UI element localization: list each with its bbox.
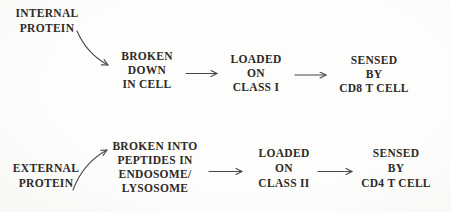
step-loaded-on-class1: LOADED ON CLASS I bbox=[201, 52, 311, 94]
external-protein-label: EXTERNAL PROTEIN bbox=[1, 161, 91, 191]
label-line: INTERNAL bbox=[2, 6, 92, 21]
label-line: EXTERNAL bbox=[1, 161, 91, 176]
antigen-pathway-diagram: INTERNAL PROTEIN BROKEN DOWN IN CELL LOA… bbox=[0, 0, 451, 212]
step-line: LOADED bbox=[201, 52, 311, 66]
step-line: PEPTIDES IN bbox=[100, 153, 210, 167]
step-line: LOADED bbox=[229, 146, 339, 161]
step-line: SENSED bbox=[341, 146, 451, 161]
step-line: CLASS I bbox=[201, 80, 311, 94]
step-line: ON bbox=[201, 66, 311, 80]
step-line: IN CELL bbox=[92, 77, 202, 91]
step-line: CD4 T CELL bbox=[341, 176, 451, 191]
step-sensed-by-cd8: SENSED BY CD8 T CELL bbox=[319, 53, 429, 95]
step-line: BROKEN INTO bbox=[100, 139, 210, 153]
step-line: ON bbox=[229, 161, 339, 176]
step-line: BY bbox=[319, 67, 429, 81]
internal-protein-label: INTERNAL PROTEIN bbox=[2, 6, 92, 36]
step-loaded-on-class2: LOADED ON CLASS II bbox=[229, 146, 339, 191]
label-line: PROTEIN bbox=[2, 21, 92, 36]
step-line: ENDOSOME/ bbox=[100, 167, 210, 181]
step-line: DOWN bbox=[92, 63, 202, 77]
step-line: BY bbox=[341, 161, 451, 176]
step-broken-into-peptides: BROKEN INTO PEPTIDES IN ENDOSOME/ LYSOSO… bbox=[100, 139, 210, 195]
step-sensed-by-cd4: SENSED BY CD4 T CELL bbox=[341, 146, 451, 191]
step-line: CLASS II bbox=[229, 176, 339, 191]
step-line: LYSOSOME bbox=[100, 181, 210, 195]
step-line: SENSED bbox=[319, 53, 429, 67]
step-broken-down-in-cell: BROKEN DOWN IN CELL bbox=[92, 49, 202, 91]
step-line: CD8 T CELL bbox=[319, 81, 429, 95]
label-line: PROTEIN bbox=[1, 176, 91, 191]
step-line: BROKEN bbox=[92, 49, 202, 63]
